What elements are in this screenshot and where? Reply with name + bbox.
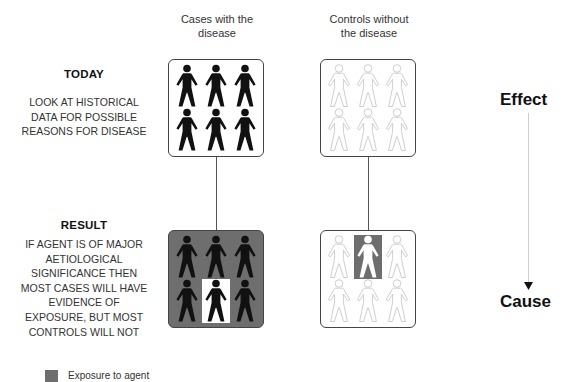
case-figure [202, 108, 231, 152]
control-figure [325, 108, 354, 152]
control-figure [382, 279, 411, 323]
person-solid-icon [233, 64, 257, 108]
case-figure [202, 64, 231, 108]
today-line: DATA FOR POSSIBLE [4, 110, 164, 125]
cases-today-box [168, 59, 264, 157]
person-outline-icon [327, 279, 351, 323]
person-outline-icon [385, 279, 409, 323]
person-outline-icon [385, 108, 409, 152]
case-figure [230, 108, 259, 152]
case-figure-exposed [230, 279, 259, 323]
case-figure [173, 64, 202, 108]
control-figure [382, 235, 411, 279]
control-figure [325, 235, 354, 279]
person-solid-icon [204, 235, 228, 279]
person-outline-icon [356, 108, 380, 152]
person-outline-icon [385, 235, 409, 279]
controls-connector-line [368, 157, 369, 230]
result-line: CONTROLS WILL NOT [4, 325, 164, 340]
result-line: EVIDENCE OF [4, 295, 164, 310]
controls-title-line1: Controls without [299, 12, 439, 26]
control-figure-exposed [354, 235, 383, 279]
cases-connector-line [216, 157, 217, 230]
person-solid-icon [175, 235, 199, 279]
result-line: MOST CASES WILL HAVE [4, 281, 164, 296]
cases-title-line2: disease [147, 26, 287, 40]
control-figure [354, 279, 383, 323]
today-line: LOOK AT HISTORICAL [4, 95, 164, 110]
cause-label: Cause [500, 292, 551, 312]
effect-cause-axis-line [528, 113, 529, 283]
person-solid-icon [175, 108, 199, 152]
down-arrow-icon [524, 282, 533, 290]
case-figure-exposed [173, 279, 202, 323]
person-solid-icon [204, 108, 228, 152]
controls-result-box [320, 230, 416, 328]
person-outline-icon [356, 64, 380, 108]
control-figure [325, 279, 354, 323]
case-figure-exposed [202, 235, 231, 279]
case-figure-exposed [230, 235, 259, 279]
person-solid-icon [204, 64, 228, 108]
result-line: AETIOLOGICAL [4, 252, 164, 267]
effect-label: Effect [500, 90, 547, 110]
person-outline-icon [327, 108, 351, 152]
case-figure [173, 108, 202, 152]
today-heading: TODAY [4, 68, 164, 80]
control-figure [382, 64, 411, 108]
case-figure [230, 64, 259, 108]
person-solid-icon [233, 279, 257, 323]
person-outline-icon [356, 279, 380, 323]
controls-title-line2: the disease [299, 26, 439, 40]
person-solid-icon [175, 64, 199, 108]
result-line: EXPOSURE, BUT MOST [4, 310, 164, 325]
control-figure [382, 108, 411, 152]
result-line: IF AGENT IS OF MAJOR [4, 237, 164, 252]
person-outline-icon [327, 235, 351, 279]
result-heading: RESULT [4, 219, 164, 231]
person-outline-icon [327, 64, 351, 108]
case-figure-exposed [173, 235, 202, 279]
cases-title-line1: Cases with the [147, 12, 287, 26]
today-line: REASONS FOR DISEASE [4, 124, 164, 139]
controls-column-title: Controls without the disease [299, 12, 439, 40]
person-solid-icon [233, 108, 257, 152]
control-figure [354, 64, 383, 108]
case-figure-unexposed [202, 279, 231, 323]
legend-swatch [45, 370, 58, 382]
today-description: LOOK AT HISTORICAL DATA FOR POSSIBLE REA… [4, 95, 164, 139]
legend-label: Exposure to agent [68, 370, 149, 381]
person-solid-icon [175, 279, 199, 323]
control-figure [325, 64, 354, 108]
control-figure [354, 108, 383, 152]
result-line: SIGNIFICANCE THEN [4, 266, 164, 281]
cases-column-title: Cases with the disease [147, 12, 287, 40]
person-white-icon [356, 235, 380, 279]
person-outline-icon [385, 64, 409, 108]
controls-today-box [320, 59, 416, 157]
cases-result-box [168, 230, 264, 328]
result-description: IF AGENT IS OF MAJOR AETIOLOGICAL SIGNIF… [4, 237, 164, 339]
person-solid-icon [204, 279, 228, 323]
person-solid-icon [233, 235, 257, 279]
